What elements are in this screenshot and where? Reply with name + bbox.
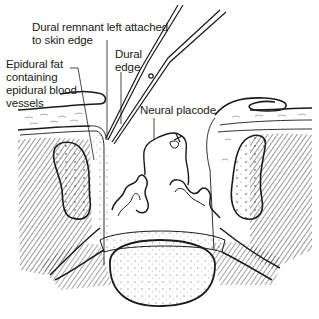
lamina-right [231, 135, 265, 219]
vertebral-body [110, 240, 215, 306]
label-epidural-fat: Epidural fat containing epidural blood v… [6, 58, 77, 110]
skin-right [215, 98, 312, 115]
spine-cross-section-drawing [0, 0, 319, 319]
neural-placode [112, 133, 220, 218]
label-dural-remnant: Dural remnant left attached to skin edge [32, 21, 168, 47]
label-neural-placode: Neural placode [140, 104, 216, 117]
illustration: Dural remnant left attached to skin edge… [0, 0, 319, 319]
label-dural-edge: Dural edge [115, 48, 142, 74]
